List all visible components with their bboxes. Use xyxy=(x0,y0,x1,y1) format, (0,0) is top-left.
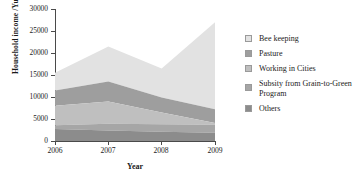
legend-label: Others xyxy=(259,104,355,114)
legend-swatch-icon xyxy=(245,35,252,42)
y-tick-label-0: 0 xyxy=(2,137,48,144)
x-tick-label-2008: 2008 xyxy=(141,146,181,155)
legend-item-working-in-cities: Working in Cities xyxy=(245,64,355,74)
legend-swatch-icon xyxy=(245,105,252,112)
x-tick-label-2009: 2009 xyxy=(195,146,235,155)
legend-swatch-icon xyxy=(245,50,252,57)
x-tick-label-2007: 2007 xyxy=(88,146,128,155)
legend-item-subsity-grain-to-green: Subsity from Grain-to-Green Program xyxy=(245,79,355,98)
legend-item-others: Others xyxy=(245,104,355,114)
x-axis-line xyxy=(55,141,215,142)
y-tick-label-30000: 30000 xyxy=(2,5,48,12)
legend-swatch-icon xyxy=(245,65,252,72)
x-tick-mark xyxy=(108,141,109,145)
legend-label: Working in Cities xyxy=(259,64,355,74)
x-tick-label-2006: 2006 xyxy=(35,146,75,155)
x-tick-mark xyxy=(161,141,162,145)
plot-area xyxy=(55,9,215,141)
y-tick-label-20000: 20000 xyxy=(2,49,48,56)
stacked-area-svg xyxy=(55,9,215,141)
x-tick-mark xyxy=(55,141,56,145)
y-tick-label-10000: 10000 xyxy=(2,93,48,100)
legend-swatch-icon xyxy=(245,84,252,91)
legend-item-pasture: Pasture xyxy=(245,49,355,59)
legend-label: Subsity from Grain-to-Green Program xyxy=(259,79,355,98)
chart-legend: Bee keeping Pasture Working in Cities Su… xyxy=(245,34,355,119)
legend-item-bee-keeping: Bee keeping xyxy=(245,34,355,44)
y-tick-label-25000: 25000 xyxy=(2,27,48,34)
y-tick-label-15000: 15000 xyxy=(2,71,48,78)
y-tick-label-5000: 5000 xyxy=(2,115,48,122)
x-axis-title: Year xyxy=(55,162,215,171)
chart-figure: Household income /Yuan 30000 25000 20000… xyxy=(0,0,355,179)
x-tick-mark xyxy=(215,141,216,145)
legend-label: Bee keeping xyxy=(259,34,355,44)
legend-label: Pasture xyxy=(259,49,355,59)
